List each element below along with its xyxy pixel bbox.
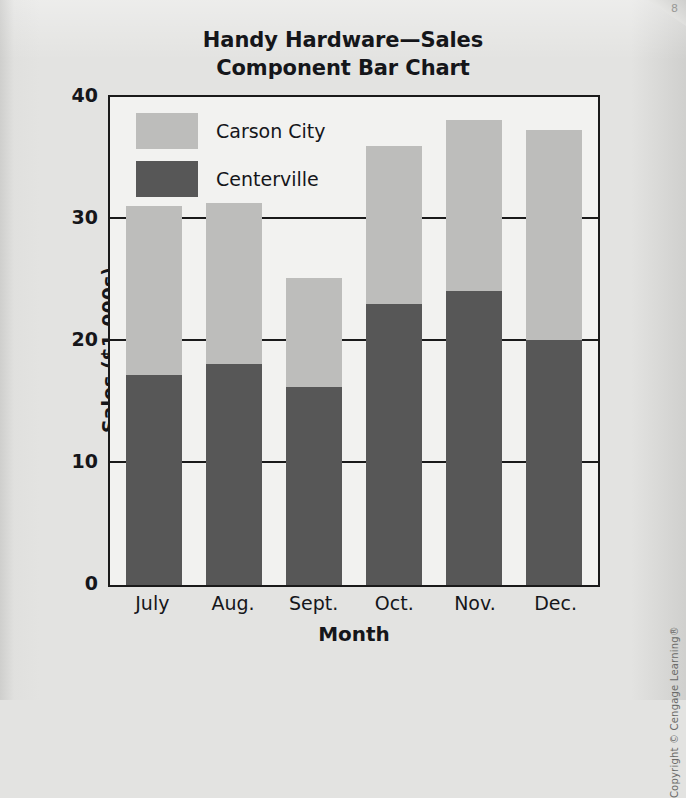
y-tick-label-40: 40 bbox=[72, 84, 98, 106]
legend-swatch-carson-city bbox=[136, 113, 198, 149]
chart-title: Handy Hardware—Sales Component Bar Chart bbox=[0, 26, 686, 83]
y-tick-label-10: 10 bbox=[72, 450, 98, 472]
bar-segment-carson-city[interactable] bbox=[206, 203, 262, 364]
y-tick-label-0: 0 bbox=[85, 572, 98, 594]
chart-legend: Carson City Centerville bbox=[136, 113, 326, 209]
bar-segment-carson-city[interactable] bbox=[126, 206, 182, 376]
bar-oct[interactable] bbox=[366, 97, 422, 585]
chart-title-line-1: Handy Hardware—Sales bbox=[0, 26, 686, 54]
bar-segment-carson-city[interactable] bbox=[286, 278, 342, 388]
y-tick-label-20: 20 bbox=[72, 328, 98, 350]
x-axis-title: Month bbox=[108, 622, 600, 646]
bar-segment-centerville[interactable] bbox=[126, 375, 182, 585]
x-tick-label-sept: Sept. bbox=[286, 592, 342, 614]
legend-swatch-centerville bbox=[136, 161, 198, 197]
x-tick-label-dec: Dec. bbox=[528, 592, 584, 614]
plot-wrapper: 010203040 Carson City Centerville bbox=[108, 95, 600, 587]
bar-segment-carson-city[interactable] bbox=[526, 130, 582, 340]
bar-nov[interactable] bbox=[446, 97, 502, 585]
x-tick-label-aug: Aug. bbox=[205, 592, 261, 614]
copyright-notice: Copyright © Cengage Learning® bbox=[669, 626, 680, 798]
legend-item-centerville: Centerville bbox=[136, 161, 326, 197]
x-tick-label-oct: Oct. bbox=[366, 592, 422, 614]
legend-label-carson-city: Carson City bbox=[216, 120, 326, 142]
bar-segment-centerville[interactable] bbox=[526, 340, 582, 585]
page-corner-fold bbox=[648, 0, 686, 26]
bar-dec[interactable] bbox=[526, 97, 582, 585]
bar-segment-carson-city[interactable] bbox=[366, 146, 422, 305]
bar-segment-centerville[interactable] bbox=[206, 364, 262, 585]
x-axis-ticks: JulyAug.Sept.Oct.Nov.Dec. bbox=[108, 592, 600, 614]
chart-title-line-2: Component Bar Chart bbox=[0, 54, 686, 82]
bar-segment-carson-city[interactable] bbox=[446, 120, 502, 291]
legend-label-centerville: Centerville bbox=[216, 168, 319, 190]
legend-item-carson-city: Carson City bbox=[136, 113, 326, 149]
x-tick-label-july: July bbox=[124, 592, 180, 614]
bar-segment-centerville[interactable] bbox=[286, 387, 342, 585]
x-tick-label-nov: Nov. bbox=[447, 592, 503, 614]
y-tick-label-30: 30 bbox=[72, 206, 98, 228]
page-number: 8 bbox=[671, 2, 678, 15]
bar-segment-centerville[interactable] bbox=[366, 304, 422, 585]
bar-segment-centerville[interactable] bbox=[446, 291, 502, 585]
